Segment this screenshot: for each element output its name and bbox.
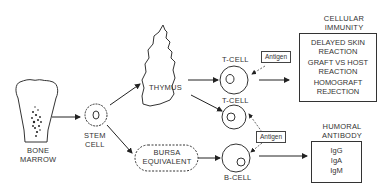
bursa-label-line1: BURSA: [142, 148, 192, 157]
cellular-title-line1: CELLULAR: [309, 14, 379, 23]
antibody-item-igg: IgG: [312, 146, 361, 156]
stem-cell-label: STEM CELL: [84, 131, 106, 149]
cellular-item: REJECTION: [300, 87, 376, 96]
thymus-label: THYMUS: [149, 83, 182, 92]
bone-marrow-label-line2: MARROW: [20, 155, 56, 164]
bursa-label-line2: EQUIVALENT: [142, 157, 192, 166]
cellular-title-line2: IMMUNITY: [309, 23, 379, 32]
cellular-item: REACTION: [300, 67, 376, 76]
thymus-icon: [142, 25, 175, 106]
humoral-antibody-box: IgG IgA IgM: [311, 141, 362, 183]
antigen-box-bottom: Antigen: [256, 131, 286, 143]
antibody-item-igm: IgM: [312, 166, 361, 176]
antigen-box-top: Antigen: [261, 51, 291, 63]
humoral-antibody-title: HUMORAL ANTIBODY: [312, 122, 372, 140]
cellular-item: HOMOGRAFT: [300, 78, 376, 87]
t-cell-2-label: T-CELL: [222, 96, 249, 105]
b-cell-icon: [222, 144, 250, 172]
cellular-item: GRAFT VS HOST: [300, 58, 376, 67]
humoral-title-line1: HUMORAL: [312, 122, 372, 131]
cellular-immunity-title: CELLULAR IMMUNITY: [309, 14, 379, 32]
cellular-item: REACTION: [300, 47, 376, 56]
cellular-immunity-box: DELAYED SKIN REACTION GRAFT VS HOST REAC…: [299, 33, 377, 102]
stem-cell-label-line1: STEM: [84, 131, 106, 140]
bursa-label: BURSA EQUIVALENT: [142, 148, 192, 166]
b-cell-label: B-CELL: [224, 173, 251, 182]
t-cell-1-icon: [220, 66, 248, 94]
bone-marrow-label: BONE MARROW: [20, 146, 56, 164]
cellular-item: DELAYED SKIN: [300, 38, 376, 47]
stem-cell-icon: [85, 104, 107, 126]
stem-cell-label-line2: CELL: [84, 140, 106, 149]
bone-marrow-icon: [16, 80, 58, 142]
t-cell-1-label: T-CELL: [222, 55, 249, 64]
t-cell-2-icon: [222, 105, 246, 129]
humoral-title-line2: ANTIBODY: [312, 131, 372, 140]
bone-marrow-label-line1: BONE: [20, 146, 56, 155]
antibody-item-iga: IgA: [312, 156, 361, 166]
